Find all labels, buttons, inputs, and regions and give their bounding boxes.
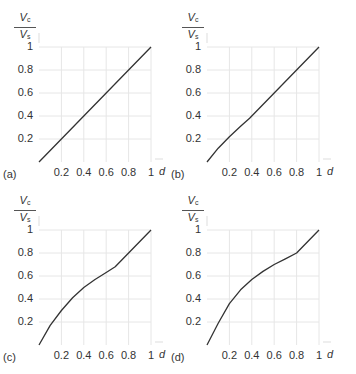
y-axis-label: VcVs [182,194,204,226]
y-tick-label: 0.8 [9,246,33,258]
y-tick-label: 0.6 [177,86,201,98]
x-axis-label: d [327,165,333,177]
y-tick-label: 0.2 [177,315,201,327]
x-tick-label: 0.6 [94,166,118,178]
x-axis-label: d [327,348,333,360]
x-tick-label: 0.6 [262,166,286,178]
data-curve [207,47,319,162]
y-tick-label: 0.2 [9,315,33,327]
y-tick-label: 0.2 [9,132,33,144]
y-axis-label: VcVs [14,11,36,43]
x-tick-label: 0.8 [117,166,141,178]
x-tick-label: 0.6 [262,349,286,361]
y-tick-label: 0.6 [177,269,201,281]
y-tick-label: 0.2 [177,132,201,144]
x-tick-label: 0.4 [240,349,264,361]
x-tick-label: 0.8 [285,166,309,178]
chart-panel-c: VcVs0.20.40.60.810.20.40.60.81d(c) [0,183,178,368]
x-tick-label: 0.8 [117,349,141,361]
y-tick-label: 0.6 [9,86,33,98]
y-tick-label: 1 [177,223,201,235]
x-axis-label: d [159,348,165,360]
panel-label: (d) [171,351,184,363]
panel-label: (a) [3,168,16,180]
x-tick-label: 0.2 [217,166,241,178]
data-curve [39,47,151,162]
panel-label: (c) [3,351,16,363]
x-tick-label: 0.4 [72,349,96,361]
x-tick-label: 0.2 [49,349,73,361]
y-tick-label: 0.6 [9,269,33,281]
y-tick-label: 1 [9,223,33,235]
y-axis-label: VcVs [182,11,204,43]
y-tick-label: 1 [177,40,201,52]
y-tick-label: 0.4 [177,109,201,121]
y-tick-label: 0.8 [177,246,201,258]
x-tick-label: 0.8 [285,349,309,361]
x-tick-label: 0.6 [94,349,118,361]
y-tick-label: 0.4 [9,109,33,121]
y-tick-label: 1 [9,40,33,52]
x-tick-label: 0.4 [72,166,96,178]
chart-panel-d: VcVs0.20.40.60.810.20.40.60.81d(d) [168,183,346,368]
data-curve [207,230,319,345]
x-axis-label: d [159,165,165,177]
x-tick-label: 0.2 [49,166,73,178]
y-tick-label: 0.8 [177,63,201,75]
chart-panel-b: VcVs0.20.40.60.810.20.40.60.81d(b) [168,0,346,185]
y-tick-label: 0.4 [177,292,201,304]
y-tick-label: 0.4 [9,292,33,304]
panel-label: (b) [171,168,184,180]
y-tick-label: 0.8 [9,63,33,75]
y-axis-label: VcVs [14,194,36,226]
data-curve [39,230,151,345]
x-tick-label: 0.4 [240,166,264,178]
x-tick-label: 0.2 [217,349,241,361]
chart-panel-a: VcVs0.20.40.60.810.20.40.60.81d(a) [0,0,178,185]
